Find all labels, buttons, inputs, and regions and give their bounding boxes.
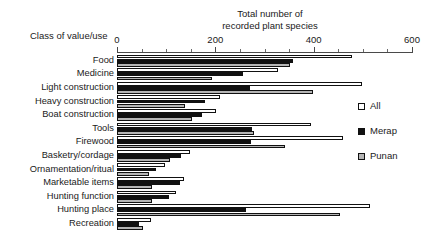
x-axis-title: Total number of recorded plant species — [180, 8, 360, 31]
bar-punan — [117, 199, 152, 203]
bar-punan — [117, 63, 290, 67]
y-axis-title: Class of value/use — [30, 30, 108, 41]
x-tick-label: 400 — [306, 34, 322, 45]
category-label: Recreation — [69, 218, 114, 228]
x-tick-label: 600 — [404, 34, 420, 45]
category-label: Hunting function — [47, 191, 114, 201]
bar-punan — [117, 117, 192, 121]
horizontal-bar-chart: Total number of recorded plant species C… — [0, 0, 436, 239]
legend-swatch-punan — [358, 153, 365, 160]
bar-punan — [117, 104, 185, 108]
x-axis-title-line2: recorded plant species — [180, 20, 360, 32]
bar-punan — [117, 90, 313, 94]
x-tick-label: 200 — [207, 34, 223, 45]
bar-punan — [117, 226, 143, 230]
bar-punan — [117, 172, 149, 176]
bar-punan — [117, 158, 170, 162]
category-label: Tools — [92, 123, 114, 133]
category-label: Light construction — [41, 82, 114, 92]
bar-punan — [117, 131, 254, 135]
bar-punan — [117, 77, 212, 81]
legend-label-all: All — [370, 100, 381, 111]
bar-punan — [117, 185, 152, 189]
legend-label-merap: Merap — [370, 125, 397, 136]
category-label: Food — [93, 55, 114, 65]
category-label: Heavy construction — [35, 96, 114, 106]
category-label: Basketry/cordage — [42, 150, 114, 160]
bar-punan — [117, 213, 340, 217]
category-label: Marketable items — [43, 177, 114, 187]
x-tick-label: 0 — [114, 34, 119, 45]
legend-swatch-merap — [358, 128, 365, 135]
category-label: Hunting place — [57, 204, 114, 214]
legend-label-punan: Punan — [370, 150, 397, 161]
x-axis-line — [117, 52, 413, 53]
bar-punan — [117, 145, 285, 149]
category-label: Firewood — [76, 136, 114, 146]
category-label: Medicine — [77, 68, 114, 78]
x-axis-title-line1: Total number of — [180, 8, 360, 20]
category-label: Boat construction — [42, 109, 114, 119]
legend-swatch-all — [358, 103, 365, 110]
category-label: Ornamentation/ritual — [30, 164, 114, 174]
